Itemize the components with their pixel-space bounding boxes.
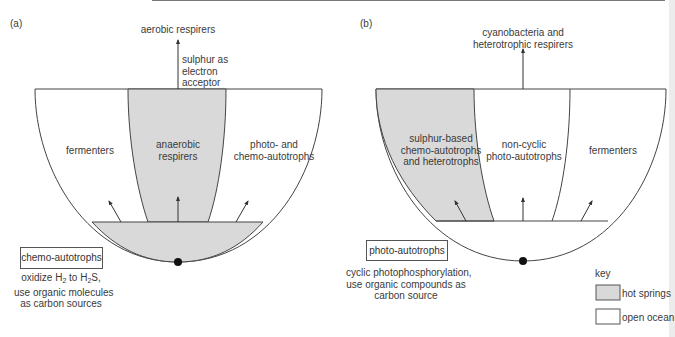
key-swatch-hot-springs <box>596 285 620 300</box>
col-line: anaerobic <box>138 139 218 151</box>
key-label-open-ocean: open ocean <box>622 312 674 324</box>
arrow-note-line: acceptor <box>182 77 228 89</box>
panel-a-root-box: chemo-autotrophs <box>20 247 103 269</box>
panel-a-col-fermenters: fermenters <box>55 145 125 157</box>
panel-a-col-anaerobic-respirers: anaerobic respirers <box>138 139 218 162</box>
root-desc-line: as carbon sources <box>14 298 108 310</box>
col-line: and heterotrophs <box>396 156 486 168</box>
col-line: photo-autotrophs <box>484 151 564 163</box>
arrow-note-line: electron <box>182 66 228 78</box>
panel-a-shaded-base <box>92 222 263 262</box>
top-label-line: cyanobacteria and <box>468 27 578 39</box>
panel-b-root-box: photo-autotrophs <box>366 240 448 261</box>
panel-b-top-label: cyanobacteria and heterotrophic respirer… <box>468 27 578 50</box>
key-title: key <box>595 268 611 280</box>
root-desc-line: oxidize H2 to H2S, <box>14 272 108 287</box>
panel-b-root-dot <box>519 257 527 265</box>
col-line: respirers <box>138 151 218 163</box>
col-line: chemo-autotrophs <box>226 151 322 163</box>
col-line: photo- and <box>226 139 322 151</box>
key-swatch-open-ocean <box>596 309 620 324</box>
panel-a-top-label: aerobic respirers <box>128 24 228 36</box>
panel-b-root-desc: cyclic photophosphorylation, use organic… <box>346 267 466 302</box>
panel-a-arrow-note: sulphur as electron acceptor <box>182 54 228 89</box>
panel-b-tag: (b) <box>360 18 372 30</box>
panel-a-root-desc: oxidize H2 to H2S, use organic molecules… <box>14 272 108 310</box>
root-desc-line: use organic compounds as <box>346 279 466 291</box>
col-line: chemo-autotrophs <box>396 145 486 157</box>
top-label-line: heterotrophic respirers <box>468 39 578 51</box>
panel-a-tag: (a) <box>10 18 22 30</box>
arrow-note-line: sulphur as <box>182 54 228 66</box>
panel-a-col-photo-chemo-autotrophs: photo- and chemo-autotrophs <box>226 139 322 162</box>
key-label-hot-springs: hot springs <box>622 288 671 300</box>
col-line: sulphur-based <box>396 133 486 145</box>
panel-b-col-fermenters: fermenters <box>578 145 648 157</box>
root-desc-line: cyclic photophosphorylation, <box>346 267 466 279</box>
panel-a-root-dot <box>174 258 182 266</box>
root-desc-line: carbon source <box>346 290 466 302</box>
root-desc-line: use organic molecules <box>14 287 108 299</box>
col-line: non-cyclic <box>484 139 564 151</box>
panel-b-col-non-cyclic: non-cyclic photo-autotrophs <box>484 139 564 162</box>
panel-b-col-sulphur-based: sulphur-based chemo-autotrophs and heter… <box>396 133 486 168</box>
